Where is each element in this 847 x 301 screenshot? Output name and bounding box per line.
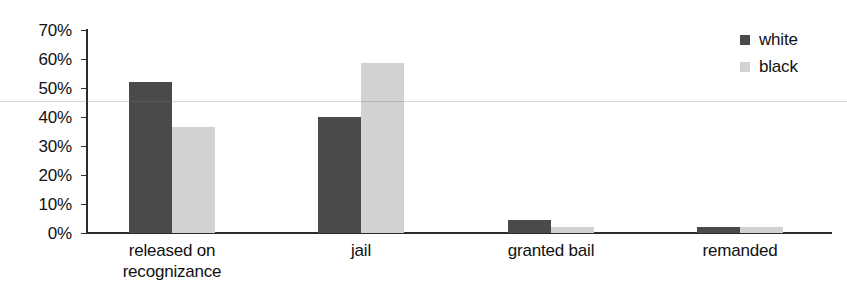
bar-black-granted-bail	[551, 227, 594, 233]
y-axis-tick-label: 50%	[0, 80, 72, 97]
y-axis-tick	[81, 59, 87, 60]
y-axis-tick	[81, 204, 87, 205]
x-axis-label: released on recognizance	[72, 240, 272, 282]
bar-white-remanded	[697, 227, 740, 233]
y-axis-tick-label: 0%	[0, 225, 72, 242]
y-axis-tick	[81, 30, 87, 31]
y-axis-tick-label: 30%	[0, 138, 72, 155]
bar-chart: 70%60%50%40%30%20%10%0% released on reco…	[0, 0, 847, 301]
y-axis-tick	[81, 117, 87, 118]
legend-label: white	[759, 31, 798, 48]
y-axis-tick	[81, 175, 87, 176]
x-axis-label: remanded	[640, 240, 840, 261]
bar-black-jail	[361, 63, 404, 233]
legend-swatch-icon	[740, 62, 750, 72]
legend-label: black	[759, 58, 798, 75]
chart-legend: whiteblack	[740, 26, 840, 80]
y-axis-tick-label: 20%	[0, 167, 72, 184]
bar-white-jail	[318, 117, 361, 233]
bar-white-released-on-recognizance	[129, 82, 172, 233]
y-axis-tick	[81, 146, 87, 147]
bar-group	[129, 30, 215, 233]
x-axis-label: granted bail	[451, 240, 651, 261]
y-axis-tick-label: 70%	[0, 22, 72, 39]
y-axis-tick	[81, 233, 87, 234]
y-axis-tick-label: 10%	[0, 196, 72, 213]
legend-item: black	[740, 53, 840, 80]
legend-swatch-icon	[740, 35, 750, 45]
bar-black-remanded	[740, 227, 783, 233]
x-axis-label: jail	[261, 240, 461, 261]
bar-group	[508, 30, 594, 233]
y-axis-tick	[81, 88, 87, 89]
y-axis-tick-label: 60%	[0, 51, 72, 68]
bar-group	[318, 30, 404, 233]
bar-black-released-on-recognizance	[172, 127, 215, 233]
legend-item: white	[740, 26, 840, 53]
bar-white-granted-bail	[508, 220, 551, 233]
y-axis-tick-label: 40%	[0, 109, 72, 126]
